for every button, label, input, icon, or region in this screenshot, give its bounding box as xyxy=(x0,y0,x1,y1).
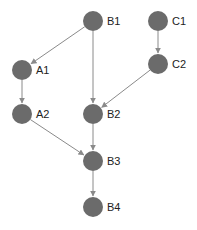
node-c1: C1 xyxy=(148,11,186,31)
node-label: C1 xyxy=(172,15,186,27)
node-label: B1 xyxy=(107,15,120,27)
node-label: B2 xyxy=(107,108,120,120)
edge-a2-to-b3 xyxy=(30,120,83,155)
node-circle xyxy=(83,151,103,171)
node-b3: B3 xyxy=(83,151,120,171)
node-circle xyxy=(83,11,103,31)
node-circle xyxy=(12,60,32,80)
node-a1: A1 xyxy=(12,60,49,80)
node-circle xyxy=(83,197,103,217)
node-b1: B1 xyxy=(83,11,120,31)
node-label: A2 xyxy=(36,108,49,120)
node-circle xyxy=(148,54,168,74)
node-a2: A2 xyxy=(12,104,49,124)
node-label: C2 xyxy=(172,58,186,70)
node-circle xyxy=(148,11,168,31)
node-circle xyxy=(83,104,103,124)
node-label: B4 xyxy=(107,201,120,213)
edge-c2-to-b2 xyxy=(102,70,150,107)
node-label: B3 xyxy=(107,155,120,167)
dependency-graph: B1C1A1C2A2B2B3B4 xyxy=(0,0,197,230)
node-b4: B4 xyxy=(83,197,120,217)
node-c2: C2 xyxy=(148,54,186,74)
node-circle xyxy=(12,104,32,124)
edge-b1-to-a1 xyxy=(31,27,85,64)
nodes-layer: B1C1A1C2A2B2B3B4 xyxy=(12,11,186,217)
node-label: A1 xyxy=(36,64,49,76)
